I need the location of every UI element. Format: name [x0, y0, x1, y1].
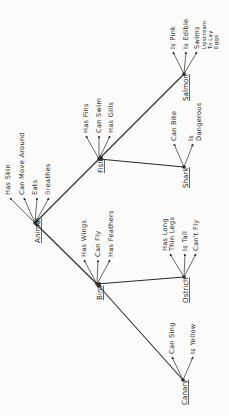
prop-can-fly: Can Fly	[94, 230, 102, 257]
prop-can-bite: Can Bite	[170, 111, 178, 141]
prop-cant-fly: Can't Fly	[192, 219, 200, 251]
prop-dangerous: Dangerous	[195, 102, 203, 141]
node-label-animal: Animal	[33, 218, 42, 243]
prop-can-sing: Can Sing	[168, 322, 176, 354]
prop-eggs: Eggs	[213, 35, 220, 49]
prop-is-yellow: Is Yellow	[189, 323, 197, 354]
prop-can-move-around: Can Move Around	[18, 132, 26, 195]
prop-is-tall: Is Tall	[181, 231, 189, 251]
edge-ostrich-bird	[97, 277, 184, 284]
prop-can-swim: Can Swim	[95, 98, 103, 133]
node-label-fish: Fish	[96, 159, 105, 173]
semantic-network-diagram: Animal Fish Bird Salmon Shark Ostrich Ca…	[0, 0, 229, 416]
node-label-salmon: Salmon	[181, 74, 190, 101]
prop-swims: Swims	[193, 26, 201, 49]
prop-breathes: Breathes	[44, 163, 52, 195]
prop-is-edible: Is Edible	[182, 19, 190, 49]
prop-has-fins: Has Fins	[82, 103, 90, 133]
node-label-bird: Bird	[95, 286, 104, 300]
prop-has-wings: Has Wings	[80, 219, 88, 257]
prop-is: Is	[187, 135, 195, 141]
node-label-canary: Canary	[180, 379, 189, 405]
node-label-shark: Shark	[181, 167, 190, 188]
edge-shark-fish	[99, 159, 184, 167]
prop-thin-legs: Thin Legs	[168, 216, 176, 252]
prop-eats: Eats	[31, 179, 39, 195]
node-label-ostrich: Ostrich	[181, 277, 190, 303]
prop-has-feathers: Has Feathers	[107, 210, 115, 257]
prop-has-skin: Has Skin	[4, 164, 12, 195]
prop-has-gills: Has Gills	[107, 101, 115, 133]
prop-is-pink: Is Pink	[169, 26, 177, 49]
